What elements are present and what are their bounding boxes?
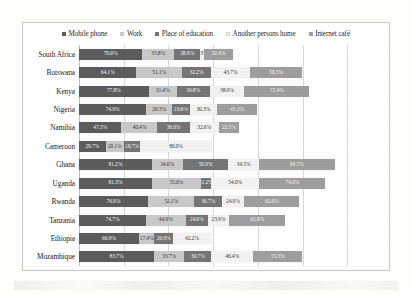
bar-segment-mobile-phone[interactable]: 47.3% <box>79 122 121 133</box>
bar-segment-work[interactable]: 40.4% <box>121 122 157 133</box>
category-label: Nigeria <box>23 105 79 114</box>
stacked-bar[interactable]: 76.9%52.1%30.7%24.9%62.0% <box>79 196 299 207</box>
bar-value-label: 84.7% <box>290 162 304 168</box>
bar-value-label: 28.9% <box>180 51 194 57</box>
legend-item-3[interactable]: Another persons home <box>226 30 296 38</box>
bar-segment-mobile-phone[interactable]: 77.8% <box>79 86 149 97</box>
bar-segment-mobile-phone[interactable]: 81.2% <box>79 159 152 170</box>
bar-segment-work[interactable]: 35.8% <box>142 49 174 60</box>
bar-segment-another-persons-home[interactable]: 42.2% <box>173 233 211 244</box>
bar-segment-work[interactable]: 55.0% <box>152 178 201 189</box>
legend-item-1[interactable]: Work <box>120 30 142 38</box>
bar-value-label: 47.3% <box>93 125 107 131</box>
category-label: Tanzania <box>23 216 79 225</box>
bar-segment-mobile-phone[interactable]: 70.6% <box>79 49 142 60</box>
bar-segment-another-persons-home[interactable]: 54.0% <box>211 178 259 189</box>
bar-segment-internet-caf[interactable]: 58.3% <box>250 67 302 78</box>
page-text-smudge <box>14 281 398 290</box>
stacked-bar[interactable]: 47.3%40.4%36.0%32.6%22.5% <box>79 122 239 133</box>
bar-segment-work[interactable]: 51.1% <box>136 67 182 78</box>
stacked-bar[interactable]: 66.9%17.4%20.9%42.2% <box>79 233 211 244</box>
bar-value-label: 30.3% <box>196 107 210 113</box>
bar-segment-internet-caf[interactable]: 74.0% <box>259 178 325 189</box>
stacked-bar[interactable]: 77.8%31.4%36.8%38.9%72.4% <box>79 86 309 97</box>
bar-segment-another-persons-home[interactable]: 34.5% <box>228 159 259 170</box>
bar-segment-internet-caf[interactable]: 32.4% <box>204 49 233 60</box>
bar-segment-internet-caf[interactable]: 84.7% <box>259 159 335 170</box>
bar-segment-work[interactable]: 44.6% <box>146 215 186 226</box>
bar-segment-internet-caf[interactable]: 22.5% <box>219 122 239 133</box>
bar-segment-mobile-phone[interactable]: 29.7% <box>79 141 106 152</box>
bar-segment-place-of-education[interactable]: 30.7% <box>194 196 221 207</box>
bar-value-label: 32.6% <box>197 125 211 131</box>
category-label: Ethiopia <box>23 234 79 243</box>
stacked-bar[interactable]: 81.3%55.0%11.2%54.0%74.0% <box>79 178 325 189</box>
bar-segment-mobile-phone[interactable]: 74.7% <box>79 215 146 226</box>
bar-segment-another-persons-home[interactable]: 43.7% <box>211 67 250 78</box>
figure-root: Mobile phoneWorkPlace of educationAnothe… <box>0 0 412 294</box>
bar-segment-place-of-education[interactable]: 18.7% <box>124 141 141 152</box>
bar-row: Mozambique83.7%33.7%30.7%46.4%55.3% <box>79 248 383 266</box>
stacked-bar[interactable]: 70.6%35.8%28.9%4.3%32.4% <box>79 49 233 60</box>
bar-segment-place-of-education[interactable]: 20.9% <box>154 233 173 244</box>
bar-segment-place-of-education[interactable]: 30.7% <box>184 251 211 262</box>
bar-value-label: 22.5% <box>222 125 236 131</box>
bar-value-label: 70.6% <box>104 51 118 57</box>
bar-segment-another-persons-home[interactable]: 80.0% <box>140 141 212 152</box>
bar-segment-work[interactable]: 29.3% <box>146 104 172 115</box>
bar-segment-internet-caf[interactable]: 62.0% <box>244 196 299 207</box>
bar-segment-internet-caf[interactable]: 72.4% <box>244 86 309 97</box>
stacked-bar[interactable]: 83.7%33.7%30.7%46.4%55.3% <box>79 251 302 262</box>
bar-segment-another-persons-home[interactable]: 24.9% <box>222 196 244 207</box>
bar-segment-another-persons-home[interactable]: 38.9% <box>210 86 245 97</box>
bar-segment-work[interactable]: 34.6% <box>152 159 183 170</box>
bar-segment-mobile-phone[interactable]: 76.9% <box>79 196 148 207</box>
bar-segment-work[interactable]: 20.1% <box>106 141 124 152</box>
bar-segment-work[interactable]: 52.1% <box>148 196 195 207</box>
bar-segment-another-persons-home[interactable]: 23.9% <box>208 215 229 226</box>
bar-segment-another-persons-home[interactable]: 30.3% <box>190 104 217 115</box>
bar-segment-place-of-education[interactable]: 11.2% <box>201 178 211 189</box>
bar-value-label: 30.7% <box>191 254 205 260</box>
category-label: Cameroon <box>23 142 79 151</box>
bar-segment-place-of-education[interactable]: 36.8% <box>177 86 210 97</box>
legend-square-marker-icon <box>62 32 66 36</box>
bar-segment-place-of-education[interactable]: 24.6% <box>186 215 208 226</box>
stacked-bar[interactable]: 74.7%44.6%24.6%23.9%62.8% <box>79 215 285 226</box>
bar-segment-place-of-education[interactable]: 19.6% <box>172 104 190 115</box>
bar-segment-place-of-education[interactable]: 28.9% <box>174 49 200 60</box>
bar-segment-work[interactable]: 31.4% <box>149 86 177 97</box>
legend-item-2[interactable]: Place of education <box>155 30 213 38</box>
bar-segment-work[interactable]: 17.4% <box>139 233 155 244</box>
bar-segment-another-persons-home[interactable]: 32.6% <box>190 122 219 133</box>
category-label: Botswana <box>23 68 79 77</box>
bar-value-label: 34.5% <box>237 162 251 168</box>
category-label: Uganda <box>23 179 79 188</box>
bar-segment-place-of-education[interactable]: 36.0% <box>157 122 189 133</box>
bar-value-label: 36.8% <box>186 88 200 94</box>
bar-value-label: 34.6% <box>160 162 174 168</box>
bar-segment-work[interactable]: 33.7% <box>154 251 184 262</box>
bar-segment-mobile-phone[interactable]: 74.9% <box>79 104 146 115</box>
bar-segment-mobile-phone[interactable]: 83.7% <box>79 251 154 262</box>
bar-value-label: 62.8% <box>250 217 264 223</box>
stacked-bar[interactable]: 29.7%20.1%18.7%80.0% <box>79 141 212 152</box>
bar-segment-mobile-phone[interactable]: 64.1% <box>79 67 136 78</box>
stacked-bar[interactable]: 64.1%51.1%32.2%43.7%58.3% <box>79 67 302 78</box>
bar-value-label: 55.0% <box>169 180 183 186</box>
bar-value-label: 81.2% <box>108 162 122 168</box>
stacked-bar[interactable]: 74.9%29.3%19.6%30.3%45.1% <box>79 104 257 115</box>
bar-segment-mobile-phone[interactable]: 66.9% <box>79 233 139 244</box>
bar-segment-mobile-phone[interactable]: 81.3% <box>79 178 152 189</box>
bar-segment-internet-caf[interactable]: 45.1% <box>217 104 257 115</box>
stacked-bar[interactable]: 81.2%34.6%50.9%34.5%84.7% <box>79 159 335 170</box>
legend-item-4[interactable]: Internet café <box>309 30 350 38</box>
bar-segment-place-of-education[interactable]: 32.2% <box>182 67 211 78</box>
bar-segment-internet-caf[interactable]: 62.8% <box>229 215 285 226</box>
legend-square-marker-icon <box>120 32 124 36</box>
legend-item-0[interactable]: Mobile phone <box>62 30 107 38</box>
bar-segment-place-of-education[interactable]: 50.9% <box>183 159 229 170</box>
bar-segment-internet-caf[interactable]: 55.3% <box>253 251 302 262</box>
bar-value-label: 76.9% <box>107 199 121 205</box>
bar-segment-another-persons-home[interactable]: 46.4% <box>211 251 252 262</box>
